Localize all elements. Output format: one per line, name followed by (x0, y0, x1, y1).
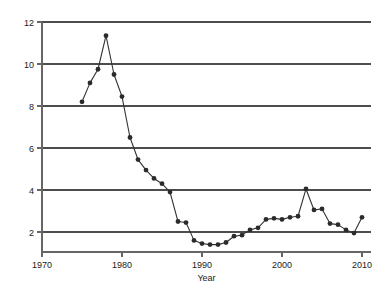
y-tick-label-2: 2 (29, 228, 34, 238)
data-point (256, 225, 261, 230)
x-tick-label-2010: 2010 (352, 260, 372, 270)
data-point (160, 181, 165, 186)
data-point (120, 94, 125, 99)
x-axis-ticks-group (42, 252, 362, 257)
y-tick-label-12: 12 (24, 18, 34, 28)
data-point (184, 220, 189, 225)
data-point (272, 216, 277, 221)
data-point (336, 222, 341, 227)
y-tick-label-6: 6 (29, 144, 34, 154)
data-point (104, 33, 109, 38)
data-point (168, 190, 173, 195)
chart-canvas: 19701980199020002010 24681012 Year (0, 0, 381, 290)
data-point (344, 228, 349, 233)
y-axis-tick-labels: 24681012 (24, 18, 34, 238)
data-point (320, 207, 325, 212)
data-point (128, 135, 133, 140)
data-point (328, 221, 333, 226)
gridlines-group (42, 22, 371, 232)
data-point (280, 217, 285, 222)
data-point (112, 72, 117, 77)
data-point (192, 238, 197, 243)
data-point (312, 208, 317, 213)
data-point (176, 219, 181, 224)
x-axis-title: Year (197, 273, 215, 283)
data-point (208, 242, 213, 247)
data-point (240, 233, 245, 238)
data-point (136, 157, 141, 162)
data-point (288, 215, 293, 220)
line-chart-figure: 19701980199020002010 24681012 Year (0, 0, 381, 290)
data-point (96, 67, 101, 72)
data-point (296, 214, 301, 219)
data-point (304, 187, 309, 192)
data-point (264, 217, 269, 222)
data-point (200, 241, 205, 246)
series-markers-group (80, 33, 365, 247)
y-tick-label-4: 4 (29, 186, 34, 196)
data-point (224, 240, 229, 245)
x-tick-label-1970: 1970 (32, 260, 52, 270)
x-tick-label-1990: 1990 (192, 260, 212, 270)
data-point (360, 215, 365, 220)
x-tick-label-1980: 1980 (112, 260, 132, 270)
data-point (352, 231, 357, 236)
x-axis-tick-labels: 19701980199020002010 (32, 260, 372, 270)
x-tick-label-2000: 2000 (272, 260, 292, 270)
data-point (152, 176, 157, 181)
y-axis-ticks-group (37, 22, 42, 232)
series-line-path (82, 36, 362, 245)
data-point (144, 168, 149, 173)
y-tick-label-10: 10 (24, 60, 34, 70)
data-point (88, 81, 93, 86)
y-tick-label-8: 8 (29, 102, 34, 112)
data-point (80, 99, 85, 104)
data-point (216, 242, 221, 247)
data-point (248, 228, 253, 233)
data-point (232, 234, 237, 239)
axes-group (42, 22, 371, 252)
